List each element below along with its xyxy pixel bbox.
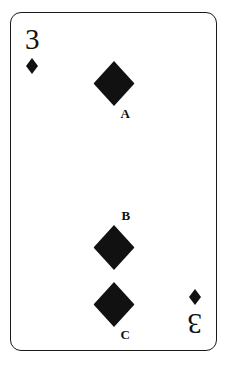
pip-column: A B C	[11, 13, 216, 350]
pip-label-a: A	[121, 107, 130, 120]
playing-card: 3 3 A	[10, 12, 217, 351]
diamond-icon	[93, 282, 134, 327]
pip-label-c: C	[121, 328, 130, 341]
pip-label-b: B	[122, 209, 131, 222]
diamond-icon	[93, 225, 134, 270]
diamond-icon	[93, 61, 134, 106]
